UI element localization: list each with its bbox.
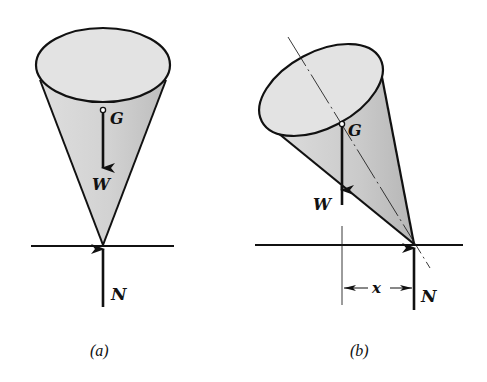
centroid-point-b [339,121,344,126]
cone-equilibrium-diagram: G W N (a) G W N [0,0,487,382]
offset-label-x: x [371,279,382,297]
caption-b: (b) [350,342,369,360]
cone-top-a [36,28,170,102]
panel-b: G W N x (b) [244,25,463,360]
centroid-label-a: G [110,109,124,128]
centroid-point-a [100,107,105,112]
normal-label-a: N [110,284,128,304]
panel-a: G W N (a) [31,28,174,360]
normal-label-b: N [420,286,438,306]
caption-a: (a) [90,342,109,360]
weight-label-b: W [313,195,333,214]
centroid-label-b: G [348,121,362,140]
weight-label-a: W [92,175,112,194]
